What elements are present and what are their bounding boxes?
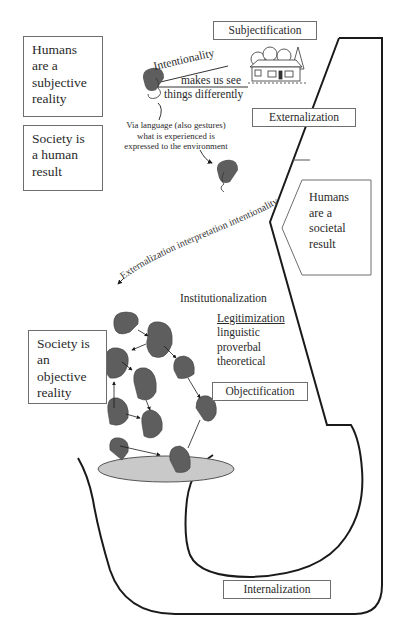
legitimization-block: Legitimization linguistic proverbal theo… — [217, 311, 285, 369]
note-line: expressed to the environment — [116, 141, 236, 152]
society-human-result-box: Society is a human result — [23, 125, 103, 191]
box-line: are a — [309, 206, 349, 222]
intentionality-line3: things differently — [164, 88, 243, 100]
box-line: a human — [32, 147, 94, 163]
note-line: Via language (also gestures) — [116, 120, 236, 131]
internalization-label: Internalization — [223, 580, 331, 599]
legitimization-item: proverbal — [217, 340, 285, 354]
box-line: an objective — [37, 352, 98, 385]
box-line: Society is — [32, 131, 94, 147]
box-line: societal — [309, 221, 349, 237]
house-illustration — [248, 47, 306, 83]
heads-group — [105, 312, 216, 473]
box-line: Society is — [37, 336, 98, 352]
humans-societal-text: Humans are a societal result — [309, 190, 349, 252]
box-line: reality — [32, 91, 94, 107]
curved-caption: Externalization interpretation intention… — [118, 195, 280, 281]
box-line: Humans — [309, 190, 349, 206]
institutionalization-label: Institutionalization — [180, 292, 267, 304]
legitimization-item: linguistic — [217, 325, 285, 339]
head-second — [217, 160, 238, 192]
humans-subjective-box: Humans are a subjective reality — [23, 36, 103, 117]
box-line: Humans — [32, 42, 94, 58]
intentionality-line2: makes us see — [181, 74, 241, 86]
box-line: are a — [32, 58, 94, 74]
subjectification-label: Subjectification — [213, 21, 317, 40]
box-line: result — [32, 164, 94, 180]
pedestal-top — [98, 456, 234, 482]
legitimization-item: theoretical — [217, 354, 285, 368]
box-line: result — [309, 237, 349, 253]
language-note: Via language (also gestures) what is exp… — [116, 120, 236, 152]
box-line: subjective — [32, 75, 94, 91]
society-objective-box: Society is an objective reality — [28, 330, 107, 404]
diagram-canvas: Externalization interpretation intention… — [0, 0, 404, 626]
note-line: what is experienced is — [116, 131, 236, 142]
externalization-label: Externalization — [252, 108, 356, 127]
box-line: reality — [37, 385, 98, 401]
objectification-label: Objectification — [212, 382, 308, 401]
legitimization-title: Legitimization — [217, 311, 285, 325]
head-top-left — [143, 68, 164, 99]
